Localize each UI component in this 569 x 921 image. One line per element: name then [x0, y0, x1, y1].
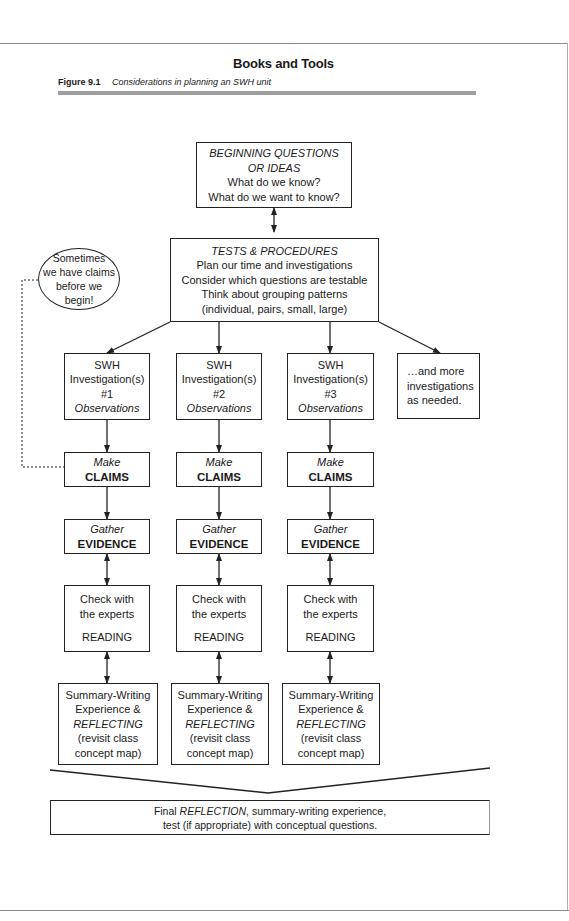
summary-3-box: Summary-Writing Experience & REFLECTING …: [282, 683, 380, 765]
bubble-line-2: we have claims: [43, 265, 115, 279]
inv2-line-4: Observations: [187, 401, 252, 416]
claims1-verb: Make: [94, 455, 121, 470]
page-bottom-rule: [0, 910, 569, 911]
claims-1-box: Make CLAIMS: [64, 452, 150, 487]
summary2-line-1: Summary-Writing: [178, 688, 263, 703]
investigation-2-box: SWH Investigation(s) #2 Observations: [176, 353, 262, 420]
investigation-3-box: SWH Investigation(s) #3 Observations: [287, 353, 374, 420]
summary3-line-4: (revisit class: [301, 731, 362, 746]
summary3-line-2: Experience &: [298, 702, 363, 717]
claims-2-box: Make CLAIMS: [176, 452, 262, 487]
claims-note-bubble: Sometimes we have claims before we begin…: [38, 248, 120, 310]
tests-line-2: Plan our time and investigations: [197, 258, 353, 273]
tests-line-5: (individual, pairs, small, large): [202, 302, 348, 317]
experts3-line-2: the experts: [303, 607, 357, 622]
experts1-line-1: Check with: [80, 592, 134, 607]
bubble-line-3: before we: [56, 279, 102, 293]
more-line-1: …and more: [407, 364, 464, 379]
summary3-line-3: REFLECTING: [296, 717, 366, 732]
summary1-line-2: Experience &: [75, 702, 140, 717]
more-investigations-box: …and more investigations as needed.: [397, 353, 480, 419]
beginning-title-2: OR IDEAS: [248, 161, 301, 176]
more-line-3: as needed.: [407, 393, 461, 408]
experts-1-box: Check with the experts READING: [64, 585, 150, 652]
inv1-line-2: Investigation(s): [70, 372, 145, 387]
investigation-1-box: SWH Investigation(s) #1 Observations: [64, 353, 150, 420]
figure-caption: Figure 9.1 Considerations in planning an…: [58, 77, 271, 87]
evidence2-noun: EVIDENCE: [190, 537, 249, 552]
summary1-line-3: REFLECTING: [73, 717, 143, 732]
tests-procedures-box: TESTS & PROCEDURES Plan our time and inv…: [170, 238, 379, 322]
summary-2-box: Summary-Writing Experience & REFLECTING …: [171, 683, 269, 765]
caption-bar: [58, 91, 476, 95]
evidence-1-box: Gather EVIDENCE: [64, 519, 150, 554]
claims2-noun: CLAIMS: [197, 470, 241, 485]
summary1-line-4: (revisit class: [78, 731, 139, 746]
bubble-line-4: begin!: [65, 293, 94, 307]
evidence2-verb: Gather: [202, 522, 236, 537]
page-top-rule: [0, 43, 567, 44]
tests-title: TESTS & PROCEDURES: [211, 244, 338, 259]
inv1-line-1: SWH: [94, 358, 120, 373]
final-reflection-box: Final REFLECTION, summary-writing experi…: [50, 800, 490, 835]
experts3-line-1: Check with: [304, 592, 358, 607]
inv1-line-4: Observations: [75, 401, 140, 416]
experts2-line-1: Check with: [192, 592, 246, 607]
figure-number: Figure 9.1: [58, 77, 101, 87]
summary2-line-5: concept map): [187, 746, 254, 761]
final-suffix: , summary-writing experience,: [246, 805, 386, 817]
evidence1-verb: Gather: [90, 522, 124, 537]
inv3-line-2: Investigation(s): [293, 372, 368, 387]
summary1-line-1: Summary-Writing: [66, 688, 151, 703]
evidence3-noun: EVIDENCE: [301, 537, 360, 552]
final-prefix: Final: [154, 805, 180, 817]
experts2-line-3: READING: [194, 630, 244, 645]
inv3-line-3: #3: [324, 387, 336, 402]
experts3-line-3: READING: [305, 630, 355, 645]
inv3-line-4: Observations: [298, 401, 363, 416]
summary3-line-5: concept map): [298, 746, 365, 761]
tests-line-4: Think about grouping patterns: [201, 287, 347, 302]
inv1-line-3: #1: [101, 387, 113, 402]
experts1-line-3: READING: [82, 630, 132, 645]
evidence-3-box: Gather EVIDENCE: [287, 519, 374, 554]
experts1-line-2: the experts: [80, 607, 134, 622]
inv2-line-2: Investigation(s): [182, 372, 257, 387]
figure-title: Considerations in planning an SWH unit: [112, 77, 271, 87]
evidence1-noun: EVIDENCE: [78, 537, 137, 552]
final-line-1: Final REFLECTION, summary-writing experi…: [154, 804, 386, 818]
page-right-rule: [567, 43, 568, 911]
experts-3-box: Check with the experts READING: [287, 585, 374, 652]
claims2-verb: Make: [206, 455, 233, 470]
claims3-verb: Make: [317, 455, 344, 470]
final-line-2: test (if appropriate) with conceptual qu…: [163, 818, 377, 832]
more-line-2: investigations: [407, 379, 474, 394]
claims-3-box: Make CLAIMS: [287, 452, 374, 487]
evidence-2-box: Gather EVIDENCE: [176, 519, 262, 554]
summary2-line-3: REFLECTING: [185, 717, 255, 732]
summary2-line-2: Experience &: [187, 702, 252, 717]
inv2-line-1: SWH: [206, 358, 232, 373]
running-head: Books and Tools: [0, 56, 567, 71]
summary1-line-5: concept map): [75, 746, 142, 761]
tests-line-3: Consider which questions are testable: [182, 273, 368, 288]
beginning-line-4: What do we want to know?: [208, 190, 339, 205]
claims3-noun: CLAIMS: [308, 470, 352, 485]
summary3-line-1: Summary-Writing: [289, 688, 374, 703]
inv3-line-1: SWH: [318, 358, 344, 373]
experts-2-box: Check with the experts READING: [176, 585, 262, 652]
final-emph: REFLECTION: [180, 805, 247, 817]
experts2-line-2: the experts: [192, 607, 246, 622]
beginning-title-1: BEGINNING QUESTIONS: [209, 146, 339, 161]
summary-1-box: Summary-Writing Experience & REFLECTING …: [58, 683, 158, 765]
summary2-line-4: (revisit class: [190, 731, 251, 746]
bubble-line-1: Sometimes: [53, 251, 106, 265]
claims1-noun: CLAIMS: [85, 470, 129, 485]
inv2-line-3: #2: [213, 387, 225, 402]
beginning-questions-box: BEGINNING QUESTIONS OR IDEAS What do we …: [196, 142, 352, 208]
evidence3-verb: Gather: [314, 522, 348, 537]
beginning-line-3: What do we know?: [228, 175, 321, 190]
